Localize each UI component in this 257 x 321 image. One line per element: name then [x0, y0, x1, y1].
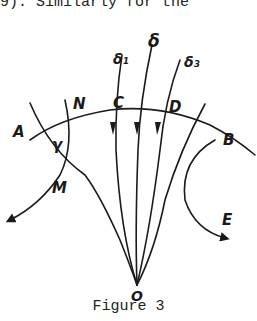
curve-D-to-O — [137, 104, 205, 285]
main-arc — [30, 109, 255, 155]
label-delta1: δ₁ — [113, 51, 129, 67]
label-N: N — [73, 95, 86, 113]
label-B: B — [223, 131, 234, 149]
label-M: M — [52, 179, 67, 197]
ray-delta1 — [116, 55, 137, 285]
curve-N-arrow — [10, 100, 69, 220]
label-delta3: δ₃ — [184, 54, 200, 70]
curve-B-to-E — [184, 140, 225, 238]
label-gamma: γ — [52, 136, 64, 154]
figure-caption: Figure 3 — [0, 298, 257, 315]
figure-diagram: δ₁ δ δ₃ A N C D B γ M E O — [0, 0, 257, 321]
label-D: D — [169, 98, 181, 116]
label-A: A — [12, 123, 25, 141]
label-delta: δ — [148, 31, 160, 51]
label-C: C — [113, 94, 124, 112]
arrowhead-3 — [155, 122, 161, 135]
label-E: E — [222, 211, 233, 229]
